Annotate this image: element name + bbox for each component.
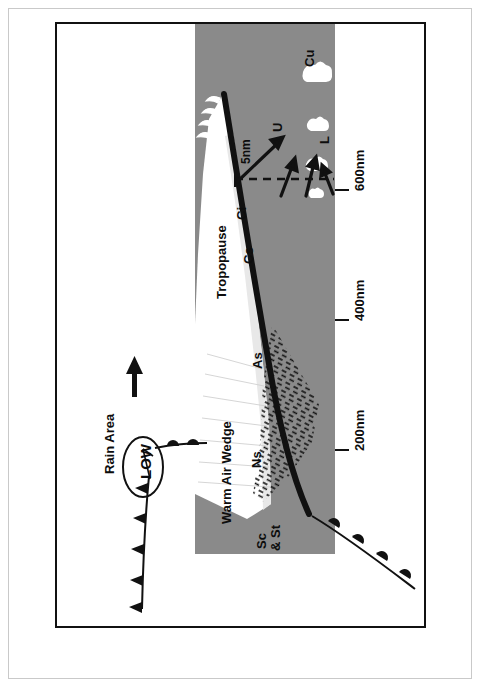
north-arrow: [126, 356, 143, 397]
distance-scale-ticks: [335, 190, 349, 450]
label-warm-air-wedge: Warm Air Wedge: [220, 421, 233, 524]
label-cirrus: Ci: [235, 207, 248, 220]
label-tropopause: Tropopause: [215, 225, 228, 299]
label-stratus: & St: [269, 525, 282, 551]
label-low-pressure: LOW: [138, 444, 153, 479]
scale-tick-label-600nm: 600nm: [353, 150, 366, 191]
label-stratocumulus: Sc: [255, 533, 268, 549]
label-cumulus: Cu: [303, 50, 316, 67]
label-height-5nm: 5nm: [240, 139, 252, 164]
label-cirrostratus: Cs: [242, 247, 255, 264]
scale-tick-label-200nm: 200nm: [353, 410, 366, 451]
label-rain-area: Rain Area: [103, 414, 116, 474]
label-upper-cloud: U: [271, 123, 284, 132]
figure-page: Tropopause Ci Cs As Ns Warm Air Wedge Sc…: [0, 0, 481, 688]
cross-section-drawing: [57, 24, 424, 626]
warm-front-bumps-lower: [328, 518, 411, 579]
label-nimbostratus: Ns: [250, 451, 263, 468]
scale-tick-label-400nm: 400nm: [353, 280, 366, 321]
figure-frame: Tropopause Ci Cs As Ns Warm Air Wedge Sc…: [55, 22, 426, 628]
label-low-cloud: L: [318, 136, 331, 144]
cold-front-barbs: [129, 483, 148, 613]
label-altostratus: As: [251, 352, 264, 369]
